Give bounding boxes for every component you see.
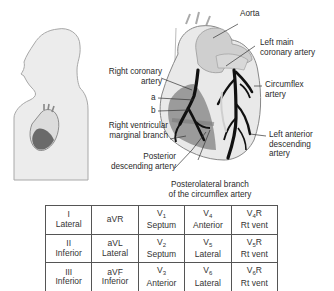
lead-region: Septum [139, 250, 184, 260]
label-aorta: Aorta [240, 9, 260, 19]
label-line: Left main [260, 38, 315, 48]
lead-base: aVR [107, 214, 124, 224]
lead-base: aVF [107, 267, 123, 277]
label-b: b [151, 106, 156, 116]
label-line: artery [269, 149, 313, 159]
lead-cell: V2Septum [138, 234, 184, 263]
table-row: IIIInferioraVFInferiorV3AnteriorV6Latera… [46, 263, 278, 291]
lead-cell: IIIInferior [46, 263, 92, 291]
label-a: a [151, 93, 156, 103]
lead-subscript: 1 [163, 213, 166, 219]
ecg-lead-table: ILateralaVRV1SeptumV4AnteriorV4RRt ventI… [45, 205, 278, 291]
lead-cell: aVLLateral [92, 234, 138, 263]
label-line: Posterolateral branch [160, 180, 260, 190]
lead-base: aVL [108, 238, 123, 248]
lead-cell: V4Anterior [185, 206, 231, 235]
lead-base: III [65, 267, 72, 277]
label-right-ventricular-marginal-branch: Right ventricular marginal branch [96, 121, 168, 140]
lead-suffix: R [256, 265, 262, 275]
label-line: marginal branch [96, 131, 168, 141]
lead-name: V6 [185, 266, 230, 279]
label-line: Right coronary [106, 67, 162, 77]
lead-cell: aVR [92, 206, 138, 235]
label-posterior-descending-artery: Posterior descending artery [106, 152, 176, 171]
lead-subscript: 4 [209, 213, 212, 219]
lead-cell: ILateral [46, 206, 92, 235]
table-row: ILateralaVRV1SeptumV4AnteriorV4RRt vent [46, 206, 278, 235]
human-silhouette [14, 29, 88, 180]
label-line: artery [106, 77, 162, 87]
label-left-anterior-descending-artery: Left anterior descending artery [269, 130, 313, 159]
lead-cell: IIInferior [46, 234, 92, 263]
label-right-coronary-artery: Right coronary artery [106, 67, 162, 86]
lead-region: Rt vent [232, 221, 277, 231]
lead-region: Rt vent [232, 250, 277, 260]
lead-cell: V1Septum [138, 206, 184, 235]
lead-subscript: 3 [163, 270, 166, 276]
lead-region: Lateral [46, 220, 91, 230]
lead-base: I [68, 209, 70, 219]
label-line: of the circumflex artery [160, 190, 260, 200]
label-circumflex-artery: Circumflex artery [265, 80, 304, 99]
label-line: coronary artery [260, 48, 315, 58]
lead-region: Inferior [46, 277, 91, 287]
lead-cell: V6RRt vent [231, 263, 277, 291]
lead-region: Anterior [139, 279, 184, 289]
lead-cell: V6Lateral [185, 263, 231, 291]
lead-name: V6R [232, 266, 277, 279]
label-left-main-coronary-artery: Left main coronary artery [260, 38, 315, 57]
lead-subscript: 5 [209, 242, 212, 248]
lead-subscript: 2 [163, 242, 166, 248]
lead-name: aVR [92, 215, 137, 225]
lead-cell: V5Lateral [185, 234, 231, 263]
lead-region: Lateral [185, 250, 230, 260]
label-line: Right ventricular [96, 121, 168, 131]
label-posterolateral-branch: Posterolateral branch of the circumflex … [160, 180, 260, 199]
lead-cell: V5RRt vent [231, 234, 277, 263]
lead-base: II [66, 238, 71, 248]
label-line: artery [265, 90, 304, 100]
label-line: descending [269, 140, 313, 150]
lead-region: Anterior [185, 221, 230, 231]
lead-subscript: 6 [209, 270, 212, 276]
lead-region: Lateral [185, 279, 230, 289]
lead-suffix: R [256, 237, 262, 247]
lead-region: Rt vent [232, 279, 277, 289]
lead-suffix: R [256, 208, 262, 218]
lead-cell: V3Anterior [138, 263, 184, 291]
lead-region: Lateral [92, 249, 137, 259]
label-line: Posterior [106, 152, 176, 162]
label-line: descending artery [106, 162, 176, 172]
lead-region: Inferior [46, 249, 91, 259]
lead-region: Septum [139, 221, 184, 231]
label-line: Left anterior [269, 130, 313, 140]
label-line: Circumflex [265, 80, 304, 90]
lead-name: V3 [139, 266, 184, 279]
lead-region: Inferior [92, 277, 137, 287]
lead-cell: aVFInferior [92, 263, 138, 291]
table-row: IIInferioraVLLateralV2SeptumV5LateralV5R… [46, 234, 278, 263]
lead-cell: V4RRt vent [231, 206, 277, 235]
